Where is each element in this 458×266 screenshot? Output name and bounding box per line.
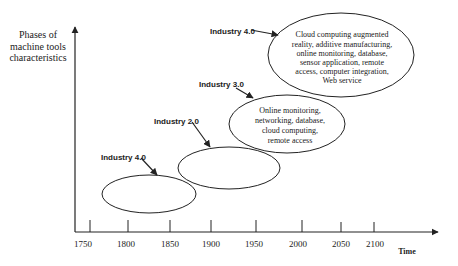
svg-text:Cloud computing augmented: Cloud computing augmented: [296, 30, 389, 39]
svg-text:Industry 2.0: Industry 2.0: [154, 117, 199, 126]
svg-text:Industry 4.0: Industry 4.0: [101, 153, 146, 162]
svg-text:1900: 1900: [202, 239, 221, 249]
svg-text:1850: 1850: [161, 239, 180, 249]
svg-text:Industry 3.0: Industry 3.0: [199, 80, 244, 89]
svg-text:characteristics: characteristics: [9, 52, 66, 63]
x-axis-ticks: [90, 220, 374, 232]
svg-text:Online monitoring,: Online monitoring,: [259, 106, 320, 115]
svg-text:1750: 1750: [74, 239, 93, 249]
svg-text:Web service: Web service: [322, 76, 362, 85]
svg-text:cloud computing,: cloud computing,: [262, 126, 318, 135]
svg-text:sensor application, remote: sensor application, remote: [300, 58, 385, 67]
industry-phases-diagram: Phases of machine tools characteristics …: [0, 0, 458, 266]
x-axis-label: Time: [398, 247, 416, 256]
x-axis-tick-labels: 1750 1800 1850 1900 1950 2000 2050 2100: [74, 239, 385, 249]
svg-text:1800: 1800: [117, 239, 136, 249]
svg-text:networking, database,: networking, database,: [255, 116, 325, 125]
svg-text:remote access: remote access: [268, 136, 313, 145]
svg-text:reality, additive manufacturin: reality, additive manufacturing,: [292, 40, 392, 49]
svg-text:2050: 2050: [332, 239, 351, 249]
phase-industry-3: Industry 3.0 Online monitoring, networki…: [199, 80, 345, 153]
svg-text:machine tools: machine tools: [10, 41, 66, 52]
svg-text:Phases of: Phases of: [19, 29, 58, 40]
svg-text:1950: 1950: [245, 239, 264, 249]
svg-text:online monitoring, database,: online monitoring, database,: [296, 49, 387, 58]
svg-text:access, computer integration,: access, computer integration,: [295, 67, 388, 76]
phase-industry-1: Industry 4.0: [101, 153, 196, 213]
svg-text:2000: 2000: [289, 239, 308, 249]
y-axis-label: Phases of machine tools characteristics: [9, 29, 66, 63]
svg-text:Industry 4.0: Industry 4.0: [210, 27, 255, 36]
svg-text:2100: 2100: [366, 239, 385, 249]
